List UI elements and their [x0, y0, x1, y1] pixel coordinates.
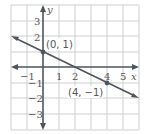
- y-tick-neg3: −3: [28, 109, 43, 120]
- line-arrow-right-icon: [131, 93, 139, 98]
- x-tick-2: 2: [72, 71, 78, 82]
- y-axis-arrow-down-icon: [40, 123, 46, 130]
- line-arrow-left-icon: [11, 36, 19, 41]
- x-tick-5: 5: [120, 71, 126, 82]
- x-tick-4: 4: [104, 71, 110, 82]
- y-axis-label: y: [46, 4, 53, 15]
- point-label-4-neg1: (4, −1): [68, 87, 103, 98]
- point-0-1: [41, 50, 46, 55]
- y-tick-3: 3: [34, 16, 40, 27]
- y-axis-arrow-up-icon: [40, 5, 46, 12]
- x-axis-label: x: [131, 71, 137, 82]
- x-axis-arrow-right-icon: [132, 64, 139, 70]
- x-tick-1: 1: [56, 71, 62, 82]
- x-axis-arrow-left-icon: [11, 64, 18, 70]
- coordinate-plane: y x −1 1 2 4 5 3 2 −1 −2 −3 (0, 1) (4, −…: [0, 0, 144, 134]
- y-tick-2: 2: [34, 32, 40, 43]
- y-tick-neg1: −1: [28, 78, 43, 89]
- y-tick-neg2: −2: [28, 93, 43, 104]
- point-label-0-1: (0, 1): [46, 39, 73, 50]
